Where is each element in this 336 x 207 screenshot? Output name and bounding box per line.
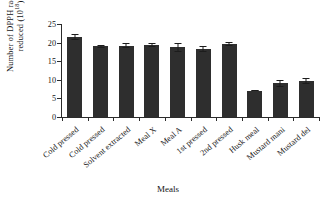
- y-tick-label: 25: [48, 20, 56, 29]
- bar-slot: [165, 24, 191, 117]
- bar: [273, 83, 288, 117]
- error-bar: [254, 90, 255, 91]
- bar: [93, 46, 108, 117]
- bar: [247, 91, 262, 117]
- x-category-label: Solvent extracted: [82, 125, 133, 169]
- x-tick-mark: [139, 117, 140, 121]
- error-bar: [74, 34, 75, 40]
- x-tick-mark: [191, 117, 192, 121]
- x-tick-mark: [113, 117, 114, 121]
- bar-slot: [139, 24, 165, 117]
- x-tick-mark: [62, 117, 63, 121]
- x-axis-title: Meals: [0, 184, 336, 194]
- x-tick-mark: [165, 117, 166, 121]
- x-tick-mark: [88, 117, 89, 121]
- chart-figure: Number of DPPH radicals reduced (1018) 2…: [0, 0, 336, 207]
- bar: [299, 81, 314, 117]
- error-bar: [126, 43, 127, 48]
- x-tick-mark: [319, 117, 320, 121]
- x-tick-mark: [242, 117, 243, 121]
- bar-slot: [242, 24, 268, 117]
- bar-slot: [113, 24, 139, 117]
- error-bar: [203, 46, 204, 53]
- bar-slot: [216, 24, 242, 117]
- error-bar: [151, 43, 152, 47]
- y-axis-title: Number of DPPH radicals reduced (1018): [6, 0, 30, 82]
- y-axis-title-exponent: 18: [15, 4, 21, 10]
- bar-slot: [62, 24, 88, 117]
- y-tick-label: 15: [48, 57, 56, 66]
- bar: [67, 37, 82, 117]
- plot-area: 2520151050 Cold pressedCold pressedSolve…: [61, 24, 319, 117]
- bar-slot: [88, 24, 114, 117]
- bar: [119, 46, 134, 117]
- y-tick-label: 0: [52, 113, 56, 122]
- error-bar: [306, 78, 307, 84]
- bar-slot: [191, 24, 217, 117]
- y-tick-label: 20: [48, 38, 56, 47]
- y-axis-title-text: Number of DPPH radicals reduced (10: [6, 0, 25, 72]
- bar: [170, 47, 185, 117]
- bar: [222, 44, 237, 117]
- y-axis-title-tail: ): [16, 1, 25, 4]
- y-tick-label: 10: [48, 75, 56, 84]
- x-category-label: Meal X: [133, 125, 158, 148]
- bar-series: [62, 24, 319, 117]
- bar-slot: [293, 24, 319, 117]
- x-tick-mark: [293, 117, 294, 121]
- error-bar: [229, 42, 230, 46]
- bar: [196, 49, 211, 117]
- bar-slot: [268, 24, 294, 117]
- bar: [144, 45, 159, 117]
- error-bar: [177, 43, 178, 53]
- x-tick-mark: [216, 117, 217, 121]
- error-bar: [280, 80, 281, 87]
- error-bar: [100, 45, 101, 48]
- y-tick-label: 5: [52, 94, 56, 103]
- x-tick-mark: [268, 117, 269, 121]
